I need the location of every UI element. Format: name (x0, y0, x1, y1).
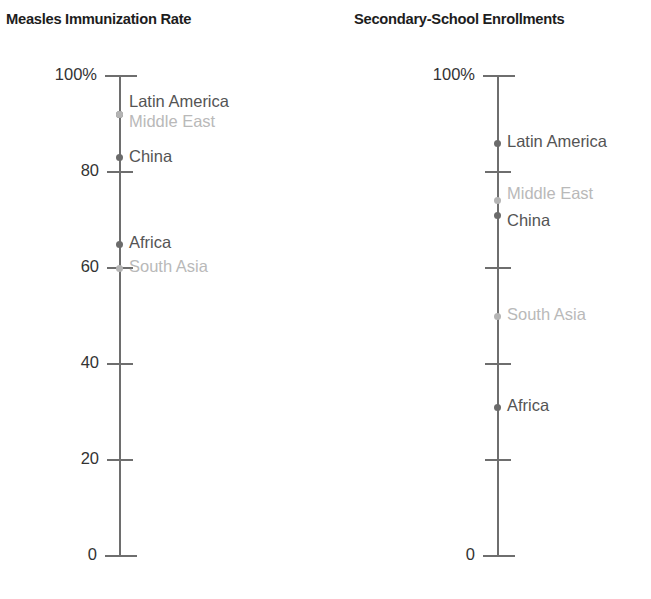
axis-tick-enrollments-20 (485, 459, 511, 461)
axis-tick-enrollments-40 (485, 363, 511, 365)
axis-tick-label-measles-60: 60 (0, 257, 99, 276)
data-point-label-enrollments-middle-east: Middle East (507, 184, 593, 203)
data-point-measles-south-asia (116, 265, 123, 272)
dual-scatter-figure: Measles Immunization Rate 100%806040200L… (0, 0, 651, 599)
data-point-enrollments-middle-east (494, 197, 501, 204)
axis-tick-label-measles-80: 80 (0, 161, 99, 180)
axis-tick-label-measles-0: 0 (0, 545, 97, 564)
axis-tick-measles-100 (105, 75, 137, 77)
data-point-label-measles-china: China (129, 147, 172, 166)
axis-tick-enrollments-60 (485, 267, 511, 269)
data-point-enrollments-china (494, 212, 501, 219)
data-point-label-measles-middle-east: Middle East (129, 112, 215, 131)
axis-tick-label-measles-100: 100% (0, 65, 97, 84)
data-point-label-enrollments-africa: Africa (507, 396, 549, 415)
axis-tick-enrollments-0 (483, 555, 515, 557)
data-point-label-measles-south-asia: South Asia (129, 257, 208, 276)
axis-line-measles (119, 76, 121, 556)
data-point-label-measles-africa: Africa (129, 233, 171, 252)
axis-tick-label-enrollments-0: 0 (355, 545, 475, 564)
axis-tick-label-measles-20: 20 (0, 449, 99, 468)
chart-panel-measles: Measles Immunization Rate 100%806040200L… (0, 0, 330, 599)
chart-panel-enrollments: Secondary-School Enrollments 100%0Latin … (330, 0, 651, 599)
axis-tick-enrollments-80 (485, 171, 511, 173)
data-point-label-enrollments-latin-america: Latin America (507, 132, 607, 151)
data-point-enrollments-africa (494, 404, 501, 411)
chart-title-measles: Measles Immunization Rate (6, 10, 191, 28)
chart-title-enrollments: Secondary-School Enrollments (354, 10, 564, 28)
axis-tick-measles-40 (107, 363, 133, 365)
data-point-measles-china (116, 154, 123, 161)
axis-tick-measles-80 (107, 171, 133, 173)
axis-tick-label-enrollments-100: 100% (355, 65, 475, 84)
data-point-label-enrollments-china: China (507, 211, 550, 230)
axis-tick-label-measles-40: 40 (0, 353, 99, 372)
axis-tick-enrollments-100 (483, 75, 515, 77)
data-point-enrollments-latin-america (494, 140, 501, 147)
axis-tick-measles-0 (105, 555, 137, 557)
data-point-measles-africa (116, 241, 123, 248)
data-point-enrollments-south-asia (494, 313, 501, 320)
axis-tick-measles-20 (107, 459, 133, 461)
data-point-label-measles-latin-america: Latin America (129, 92, 229, 111)
data-point-label-enrollments-south-asia: South Asia (507, 305, 586, 324)
data-point-measles-middle-east (116, 111, 123, 118)
